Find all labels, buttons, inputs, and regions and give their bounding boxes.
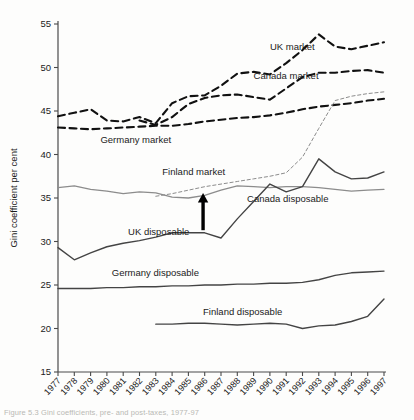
y-axis-tick-label: 20 <box>40 323 51 334</box>
x-axis-tick-label: 1997 <box>368 376 389 397</box>
x-axis-tick-label: 1988 <box>221 376 242 397</box>
x-axis-tick-label: 1978 <box>58 376 79 397</box>
x-axis-tick-label: 1989 <box>238 376 259 397</box>
x-axis-tick-label: 1983 <box>140 376 161 397</box>
y-axis-tick-label: 35 <box>40 192 51 203</box>
x-axis-tick-label: 1995 <box>335 376 356 397</box>
series-label-finland-disposable: Finland disposable <box>203 306 282 317</box>
x-axis-tick-label: 1992 <box>286 376 307 397</box>
x-axis-tick-label: 1990 <box>254 376 275 397</box>
figure-caption: Figure 5.3 Gini coefficients, pre- and p… <box>4 408 199 417</box>
x-axis-tick-label: 1980 <box>91 376 112 397</box>
series-line-uk-market <box>58 34 384 123</box>
gini-coefficient-line-chart: 152025303540455055Gini coefficient per c… <box>0 0 414 420</box>
x-axis-tick-label: 1987 <box>205 376 226 397</box>
series-line-germany-disposable <box>58 271 384 288</box>
series-line-canada-disposable <box>58 186 384 198</box>
y-axis-tick-label: 40 <box>40 149 51 160</box>
series-label-finland-market: Finland market <box>162 166 225 177</box>
x-axis-tick-label: 1986 <box>189 376 210 397</box>
x-axis-tick-label: 1993 <box>303 376 324 397</box>
x-axis-tick-label: 1979 <box>75 376 96 397</box>
y-axis-tick-label: 25 <box>40 279 51 290</box>
y-axis-tick-label: 45 <box>40 105 51 116</box>
y-axis-title: Gini coefficient per cent <box>8 148 19 247</box>
uk-disposable-rise-arrow <box>198 193 208 230</box>
series-line-germany-market <box>58 99 384 129</box>
series-label-germany-disposable: Germany disposable <box>112 267 199 278</box>
x-axis-tick-label: 1996 <box>352 376 373 397</box>
figure-container: 152025303540455055Gini coefficient per c… <box>0 0 414 420</box>
series-label-canada-market: Canada market <box>254 70 319 81</box>
x-axis-tick-label: 1982 <box>123 376 144 397</box>
series-label-germany-market: Germany market <box>100 134 171 145</box>
series-label-uk-market: UK market <box>270 41 315 52</box>
y-axis-tick-label: 55 <box>40 18 51 29</box>
series-label-canada-disposable: Canada disposable <box>247 193 328 204</box>
x-axis-tick-label: 1984 <box>156 376 177 397</box>
series-line-finland-market <box>156 92 384 196</box>
x-axis-tick-label: 1994 <box>319 376 340 397</box>
y-axis-tick-label: 15 <box>40 366 51 377</box>
x-axis-tick-label: 1977 <box>42 376 63 397</box>
y-axis-tick-label: 30 <box>40 236 51 247</box>
y-axis-tick-label: 50 <box>40 62 51 73</box>
x-axis-tick-label: 1991 <box>270 376 291 397</box>
x-axis-tick-label: 1981 <box>107 376 128 397</box>
series-label-uk-disposable: UK disposable <box>128 226 189 237</box>
x-axis-tick-label: 1985 <box>172 376 193 397</box>
